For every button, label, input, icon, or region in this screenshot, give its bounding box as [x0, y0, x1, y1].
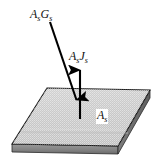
- radiation-surface-figure: AsGs AsJs As: [0, 0, 158, 162]
- emitted-second-subscript: s: [85, 56, 88, 65]
- radiosity-label: AsJs: [69, 50, 88, 65]
- figure-canvas: [0, 0, 158, 162]
- surface-area-label: As: [96, 109, 108, 124]
- incident-second-symbol: G: [40, 7, 49, 21]
- incident-second-subscript: s: [49, 14, 52, 23]
- area-base-subscript: s: [104, 115, 107, 124]
- plate-sheen: [22, 132, 128, 133]
- incident-irradiation-label: AsGs: [30, 8, 52, 23]
